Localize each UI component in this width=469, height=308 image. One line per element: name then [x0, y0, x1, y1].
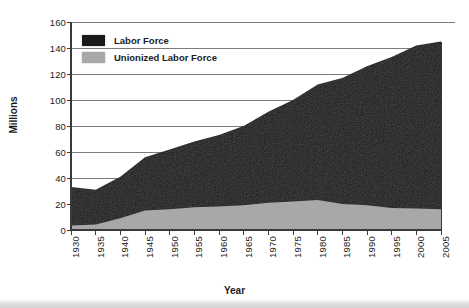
- legend-item-unionized-labor-force: Unionized Labor Force: [82, 50, 217, 64]
- legend-label-labor-force: Labor Force: [114, 35, 169, 46]
- legend-swatch-gray-icon: [82, 52, 105, 63]
- legend-label-unionized-labor-force: Unionized Labor Force: [114, 52, 217, 63]
- legend-item-labor-force: Labor Force: [82, 33, 217, 47]
- area-labor-force: [71, 42, 441, 231]
- legend-swatch-black-icon: [82, 35, 105, 46]
- scan-artifact-band: [0, 299, 469, 308]
- chart-canvas: [0, 0, 469, 308]
- chart-figure: Millions 020406080100120140160 193019351…: [0, 0, 469, 308]
- x-axis-title: Year: [0, 285, 469, 296]
- chart-legend: Labor Force Unionized Labor Force: [82, 33, 217, 67]
